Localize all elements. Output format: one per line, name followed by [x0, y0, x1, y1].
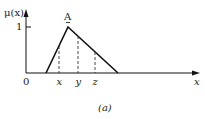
x-axis-arrow-icon: [192, 71, 200, 76]
membership-triangle: [46, 27, 118, 73]
x-axis-label: x: [194, 76, 200, 87]
dashed-label-z: z: [92, 76, 99, 87]
y-axis-label: μ(x): [4, 7, 24, 18]
dashed-label-x: x: [57, 76, 63, 87]
dashed-label-y: y: [75, 76, 82, 87]
y-axis-arrow-icon: [24, 9, 29, 17]
caption: (a): [98, 102, 112, 113]
membership-diagram: μ(x) 1 A 0 x y z x (a): [0, 0, 205, 119]
y-tick-one-label: 1: [16, 21, 22, 32]
origin-label: 0: [23, 76, 29, 87]
peak-label: A: [63, 11, 72, 22]
